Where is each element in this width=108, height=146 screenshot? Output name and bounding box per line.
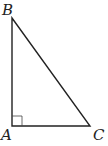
- right-angle-marker: [12, 116, 22, 126]
- vertex-label-a: A: [0, 126, 12, 144]
- triangle-abc: [12, 18, 90, 126]
- vertex-label-c: C: [93, 126, 105, 144]
- vertex-label-b: B: [1, 1, 13, 19]
- triangle-diagram: B A C: [0, 0, 108, 146]
